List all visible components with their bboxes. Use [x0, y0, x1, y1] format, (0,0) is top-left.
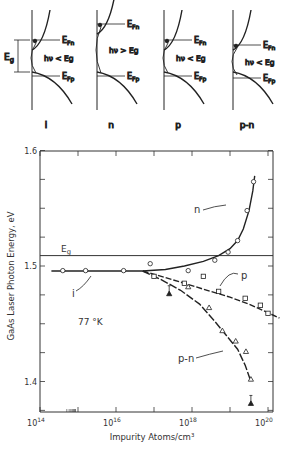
- data-point-n: [235, 238, 239, 242]
- plot-frame: [40, 151, 273, 412]
- data-point-p: [258, 303, 262, 307]
- transition-label: hν > Eg: [109, 46, 139, 55]
- data-point-n: [251, 179, 255, 183]
- data-point-n: [245, 208, 249, 212]
- conduction-band: [164, 10, 182, 50]
- transition-label: hν < Eg: [44, 54, 74, 63]
- data-point-p: [216, 289, 220, 293]
- data-point-p: [152, 274, 156, 278]
- y-tick-label: 1.6: [24, 147, 37, 156]
- plot-series: npp-ni: [51, 176, 279, 406]
- data-point-i: [61, 268, 65, 272]
- curve-p: [143, 271, 280, 318]
- efn-label: EFn: [263, 41, 276, 51]
- efp-label: EFp: [127, 72, 140, 83]
- data-point-p: [182, 281, 186, 285]
- x-tick-label: 1020: [255, 416, 273, 428]
- gap-label: Eg: [4, 52, 14, 64]
- data-point-p: [243, 296, 247, 300]
- label-i: i: [72, 288, 75, 299]
- efp-label: EFp: [263, 74, 276, 85]
- conduction-band: [97, 0, 115, 34]
- electron-dot: [98, 23, 102, 27]
- efp-label: EFp: [62, 72, 75, 83]
- conduction-band: [32, 10, 50, 50]
- efn-label: EFn: [127, 20, 140, 30]
- data-point-p-n: [243, 349, 248, 354]
- transition-label: hν < Eg: [176, 54, 206, 63]
- diagram-label: i: [45, 120, 48, 130]
- y-axis-label: GaAs Laser Photon Energy, eV: [6, 211, 16, 340]
- efn-label: EFn: [62, 36, 75, 46]
- figure: EFnEFphν < EgiEgEFnEFphν > EgnEFnEFphν <…: [0, 0, 288, 455]
- electron-dot: [165, 39, 169, 43]
- band-diagram-p: EFnEFphν < Egp: [163, 10, 207, 130]
- curve-n: [143, 176, 255, 271]
- x-tick-label: 1018: [179, 416, 197, 428]
- data-point-p: [201, 274, 205, 278]
- y-tick-label: 1.5: [24, 262, 37, 271]
- data-point-i: [121, 268, 125, 272]
- band-diagram-n: EFnEFphν > Egn: [96, 0, 140, 130]
- band-diagrams: EFnEFphν < EgiEgEFnEFphν > EgnEFnEFphν <…: [4, 0, 276, 130]
- data-point-n: [186, 268, 190, 272]
- data-point-p-n: [207, 305, 212, 310]
- y-tick-label: 1.4: [24, 378, 37, 387]
- band-diagram-i: EFnEFphν < EgiEg: [4, 10, 75, 130]
- data-point-p: [266, 311, 270, 315]
- electron-dot: [33, 39, 37, 43]
- diagram-label: n: [108, 120, 114, 130]
- x-tick-label: 1014: [27, 416, 45, 428]
- label-p: p: [241, 270, 247, 281]
- diagram-label: p-n: [240, 120, 255, 130]
- temperature-label: 77 °K: [78, 317, 104, 327]
- data-point-p-n: [220, 328, 225, 333]
- data-point-p-n: [233, 338, 238, 343]
- diagram-label: p: [175, 120, 181, 130]
- efn-label: EFn: [194, 36, 207, 46]
- eg-label: Eg: [61, 244, 71, 256]
- transition-label: hν < Eg: [245, 58, 275, 67]
- efp-label: EFp: [194, 72, 207, 83]
- x-axis-label: Impurity Atoms/cm³: [110, 432, 195, 442]
- plot-axes: 1.41.51.61014101610181020Eg77 °K: [24, 147, 273, 429]
- data-point-n: [148, 261, 152, 265]
- data-point-n: [226, 250, 230, 254]
- label-n: n: [194, 204, 200, 215]
- electron-dot: [234, 44, 238, 48]
- x-tick-label: 1016: [103, 416, 121, 428]
- label-pn: p-n: [178, 353, 194, 364]
- band-diagram-p-n: EFnEFphν < Egp-n: [232, 10, 276, 130]
- data-point-n: [213, 258, 217, 262]
- data-point-i: [83, 268, 87, 272]
